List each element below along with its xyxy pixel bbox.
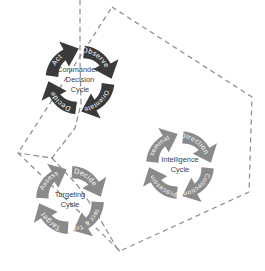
decision-cycle-title-line3: Cycle — [71, 85, 89, 94]
intelligence-cycle-title-line2: Cycle — [171, 165, 189, 174]
cycles-diagram: Observe Orientate Decide Act Commander's… — [0, 0, 265, 271]
targeting-cycle-title-line2: Cycle — [61, 200, 79, 209]
diagram-canvas: Observe Orientate Decide Act Commander's… — [0, 0, 265, 271]
intelligence-cycle-title-line1: Intelligence — [161, 155, 198, 164]
boundary-divider-join — [118, 250, 120, 251]
targeting-cycle: Decide Detect & Track Target Assess Targ… — [0, 0, 107, 237]
intelligence-cycle: Direction Collection Processing Dissemin… — [0, 0, 218, 203]
decision-cycle-title-line2: Decision — [66, 75, 94, 84]
decision-cycle-title-line1: Commander's — [57, 65, 103, 74]
targeting-cycle-title-line1: Targeting — [55, 190, 85, 199]
label-detect-and-track: Detect & Track — [0, 0, 101, 233]
